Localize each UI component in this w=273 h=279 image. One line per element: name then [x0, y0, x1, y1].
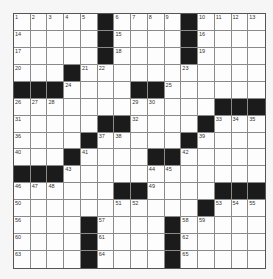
crossword-cell[interactable] [114, 149, 131, 166]
crossword-cell[interactable]: 39 [198, 133, 215, 150]
crossword-cell[interactable]: 42 [181, 149, 198, 166]
crossword-cell[interactable] [181, 166, 198, 183]
crossword-cell[interactable] [248, 31, 265, 48]
crossword-cell[interactable] [215, 149, 232, 166]
crossword-cell[interactable] [215, 234, 232, 251]
crossword-cell[interactable]: 28 [47, 99, 64, 116]
crossword-cell[interactable]: 23 [181, 65, 198, 82]
crossword-cell[interactable] [215, 251, 232, 268]
crossword-cell[interactable] [248, 133, 265, 150]
crossword-cell[interactable] [215, 217, 232, 234]
crossword-cell[interactable] [31, 133, 48, 150]
crossword-cell[interactable] [215, 65, 232, 82]
crossword-cell[interactable] [131, 234, 148, 251]
crossword-cell[interactable]: 20 [14, 65, 31, 82]
crossword-cell[interactable] [248, 234, 265, 251]
crossword-cell[interactable]: 55 [248, 200, 265, 217]
crossword-cell[interactable]: 47 [31, 183, 48, 200]
crossword-cell[interactable] [165, 31, 182, 48]
crossword-cell[interactable] [148, 65, 165, 82]
crossword-cell[interactable]: 36 [14, 133, 31, 150]
crossword-cell[interactable] [148, 31, 165, 48]
crossword-cell[interactable] [198, 166, 215, 183]
crossword-cell[interactable] [31, 31, 48, 48]
crossword-cell[interactable]: 7 [131, 14, 148, 31]
crossword-cell[interactable]: 53 [215, 200, 232, 217]
crossword-cell[interactable] [198, 251, 215, 268]
crossword-cell[interactable] [31, 234, 48, 251]
crossword-cell[interactable] [232, 133, 249, 150]
crossword-cell[interactable] [181, 99, 198, 116]
crossword-cell[interactable] [165, 65, 182, 82]
crossword-cell[interactable] [81, 99, 98, 116]
crossword-cell[interactable]: 32 [131, 116, 148, 133]
crossword-cell[interactable] [131, 31, 148, 48]
crossword-cell[interactable] [198, 183, 215, 200]
crossword-cell[interactable] [165, 48, 182, 65]
crossword-cell[interactable] [165, 183, 182, 200]
crossword-cell[interactable] [181, 200, 198, 217]
crossword-cell[interactable]: 31 [14, 116, 31, 133]
crossword-cell[interactable]: 24 [64, 82, 81, 99]
crossword-cell[interactable]: 17 [14, 48, 31, 65]
crossword-cell[interactable]: 46 [14, 183, 31, 200]
crossword-cell[interactable]: 3 [47, 14, 64, 31]
crossword-cell[interactable]: 16 [198, 31, 215, 48]
crossword-cell[interactable] [131, 48, 148, 65]
crossword-cell[interactable] [232, 217, 249, 234]
crossword-cell[interactable] [81, 200, 98, 217]
crossword-cell[interactable] [215, 166, 232, 183]
crossword-cell[interactable]: 21 [81, 65, 98, 82]
crossword-cell[interactable] [248, 149, 265, 166]
crossword-cell[interactable] [81, 31, 98, 48]
crossword-cell[interactable] [148, 116, 165, 133]
crossword-cell[interactable]: 18 [114, 48, 131, 65]
crossword-cell[interactable] [64, 217, 81, 234]
crossword-cell[interactable]: 43 [64, 166, 81, 183]
crossword-cell[interactable] [165, 200, 182, 217]
crossword-cell[interactable] [198, 234, 215, 251]
crossword-cell[interactable] [31, 251, 48, 268]
crossword-cell[interactable]: 1 [14, 14, 31, 31]
crossword-cell[interactable] [98, 99, 115, 116]
crossword-cell[interactable]: 5 [81, 14, 98, 31]
crossword-cell[interactable]: 14 [14, 31, 31, 48]
crossword-cell[interactable] [47, 48, 64, 65]
crossword-cell[interactable] [98, 200, 115, 217]
crossword-cell[interactable]: 48 [47, 183, 64, 200]
crossword-cell[interactable] [47, 65, 64, 82]
crossword-cell[interactable] [47, 149, 64, 166]
crossword-cell[interactable]: 13 [248, 14, 265, 31]
crossword-cell[interactable] [198, 149, 215, 166]
crossword-cell[interactable] [98, 183, 115, 200]
crossword-cell[interactable] [47, 133, 64, 150]
crossword-cell[interactable] [114, 217, 131, 234]
crossword-cell[interactable] [131, 133, 148, 150]
crossword-cell[interactable] [148, 200, 165, 217]
crossword-cell[interactable] [215, 133, 232, 150]
crossword-cell[interactable]: 33 [215, 116, 232, 133]
crossword-cell[interactable] [98, 166, 115, 183]
crossword-cell[interactable]: 19 [198, 48, 215, 65]
crossword-cell[interactable]: 38 [114, 133, 131, 150]
crossword-cell[interactable]: 65 [181, 251, 198, 268]
crossword-cell[interactable] [47, 217, 64, 234]
crossword-cell[interactable] [181, 183, 198, 200]
crossword-cell[interactable] [114, 234, 131, 251]
crossword-cell[interactable] [47, 116, 64, 133]
crossword-cell[interactable]: 9 [165, 14, 182, 31]
crossword-cell[interactable] [31, 116, 48, 133]
crossword-cell[interactable] [64, 31, 81, 48]
crossword-cell[interactable] [64, 200, 81, 217]
crossword-cell[interactable]: 27 [31, 99, 48, 116]
crossword-cell[interactable] [232, 82, 249, 99]
crossword-cell[interactable]: 54 [232, 200, 249, 217]
crossword-cell[interactable]: 25 [165, 82, 182, 99]
crossword-cell[interactable] [248, 65, 265, 82]
crossword-cell[interactable] [98, 149, 115, 166]
crossword-cell[interactable] [165, 133, 182, 150]
crossword-cell[interactable] [232, 251, 249, 268]
crossword-cell[interactable] [131, 149, 148, 166]
crossword-cell[interactable]: 58 [181, 217, 198, 234]
crossword-cell[interactable] [47, 234, 64, 251]
